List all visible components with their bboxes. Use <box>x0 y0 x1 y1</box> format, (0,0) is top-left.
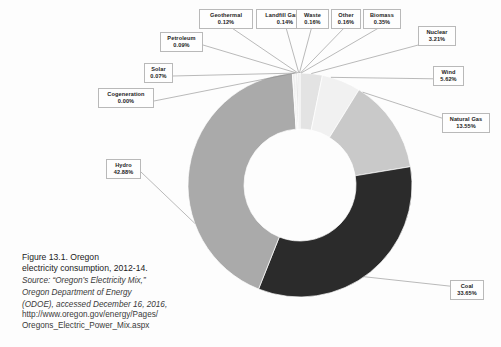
caption-source-line1: Source: “Oregon’s Electricity Mix,” <box>22 276 217 287</box>
callout-nuclear-value: 3.21% <box>422 36 452 42</box>
leader-line <box>203 45 297 73</box>
callout-biomass: Biomass 0.35% <box>363 9 401 29</box>
leader-line <box>299 26 312 73</box>
caption-title-line1: Figure 13.1. Oregon <box>22 252 217 263</box>
callout-coal-label: Coal <box>454 283 480 289</box>
leader-line <box>331 77 448 79</box>
callout-petroleum-label: Petroleum <box>164 35 199 41</box>
callout-solar-value: 0.07% <box>148 73 169 79</box>
caption-url-line1: http://www.oregon.gov/energy/Pages/ <box>22 310 217 321</box>
caption-source-line3: (ODOE), accessed December 16, 2016, <box>22 300 217 311</box>
callout-hydro: Hydro 42.88% <box>106 159 141 179</box>
figure-caption: Figure 13.1. Oregon electricity consumpt… <box>22 252 217 332</box>
callout-geothermal: Geothermal 0.12% <box>199 9 253 29</box>
figure-container: Geothermal 0.12% Landfill Gases 0.14% Wa… <box>0 0 501 347</box>
leader-line <box>301 26 382 73</box>
callout-geothermal-value: 0.12% <box>203 19 249 25</box>
callout-hydro-value: 42.88% <box>110 169 137 175</box>
callout-natural-gas-value: 13.55% <box>446 123 486 129</box>
caption-title-line2: electricity consumption, 2012-14. <box>22 263 217 274</box>
donut-slice-coal <box>259 167 412 297</box>
callout-natural-gas: Natural Gas 13.55% <box>442 113 490 133</box>
callout-waste: Waste 0.16% <box>296 9 329 29</box>
callout-petroleum-value: 0.09% <box>164 42 199 48</box>
callout-coal-value: 33.65% <box>454 290 480 296</box>
callout-coal: Coal 33.65% <box>450 280 484 300</box>
callout-nuclear-label: Nuclear <box>422 29 452 35</box>
callout-wind-label: Wind <box>437 69 460 75</box>
callout-wind: Wind 5.62% <box>433 66 464 86</box>
callout-geothermal-label: Geothermal <box>203 12 249 18</box>
donut-slices <box>188 73 412 297</box>
callout-natural-gas-label: Natural Gas <box>446 116 486 122</box>
callout-hydro-label: Hydro <box>110 162 137 168</box>
callout-cogeneration-label: Cogeneration <box>102 91 150 97</box>
callout-petroleum: Petroleum 0.09% <box>160 32 203 52</box>
callout-waste-value: 0.16% <box>300 19 325 25</box>
callout-other: Other 0.16% <box>331 9 361 29</box>
callout-cogeneration: Cogeneration 0.00% <box>98 88 154 108</box>
caption-source-line2: Oregon Department of Energy <box>22 288 217 299</box>
callout-solar-label: Solar <box>148 66 169 72</box>
callout-wind-value: 5.62% <box>437 76 460 82</box>
leader-line <box>141 172 195 223</box>
callout-waste-label: Waste <box>300 12 325 18</box>
callout-other-value: 0.16% <box>335 19 357 25</box>
callout-biomass-value: 0.35% <box>367 19 397 25</box>
caption-url-line2: Oregons_Electric_Power_Mix.aspx <box>22 321 217 332</box>
callout-biomass-label: Biomass <box>367 12 397 18</box>
callout-nuclear: Nuclear 3.21% <box>418 26 456 46</box>
callout-other-label: Other <box>335 12 357 18</box>
callout-solar: Solar 0.07% <box>144 63 173 83</box>
callout-cogeneration-value: 0.00% <box>102 98 150 104</box>
